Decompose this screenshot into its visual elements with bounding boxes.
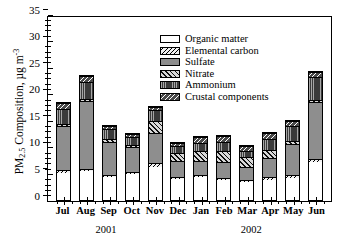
x-axis-minor-tick <box>301 201 302 204</box>
bar-segment-organic-matter <box>309 162 322 200</box>
legend-item-sulfate[interactable]: Sulfate <box>160 57 269 68</box>
bar-feb[interactable] <box>216 135 231 201</box>
y-axis-title-subscript: 2.5 <box>18 148 27 158</box>
x-axis-minor-tick <box>209 201 210 204</box>
year-label-2002: 2002 <box>241 224 262 235</box>
legend-swatch-icon <box>160 93 180 101</box>
x-axis-tick-inner <box>87 197 88 201</box>
legend-item-label: Nitrate <box>185 69 214 80</box>
legend-item-elemental-carbon[interactable]: Elemental carbon <box>160 46 269 57</box>
bar-segment-sulfate <box>240 167 253 180</box>
legend-item-label: Elemental carbon <box>185 46 259 57</box>
bar-segment-ammonium <box>263 139 276 149</box>
x-axis-label-sep: Sep <box>98 205 120 219</box>
x-axis-label-apr: Apr <box>259 205 281 219</box>
x-axis-minor-tick <box>118 201 119 204</box>
bar-segment-ammonium <box>149 110 162 121</box>
legend-swatch-icon <box>160 35 180 43</box>
x-axis-label-jan: Jan <box>190 205 212 219</box>
bar-mar[interactable] <box>239 145 254 201</box>
legend-item-label: Sulfate <box>185 57 215 68</box>
legend-swatch-icon <box>160 58 180 66</box>
bar-sep[interactable] <box>102 125 117 201</box>
x-axis-minor-tick <box>126 201 127 204</box>
legend-swatch-icon <box>160 70 180 78</box>
bar-dec[interactable] <box>170 142 185 201</box>
y-axis-tick-label: 15 <box>22 109 40 121</box>
bar-apr[interactable] <box>262 132 277 201</box>
bar-jul[interactable] <box>56 102 71 201</box>
bar-segment-organic-matter <box>217 180 230 200</box>
x-axis-minor-tick <box>194 201 195 204</box>
bar-segment-sulfate <box>286 144 299 175</box>
bar-segment-nitrate <box>240 157 253 167</box>
legend-item-nitrate[interactable]: Nitrate <box>160 69 269 80</box>
bar-segment-sulfate <box>103 142 116 175</box>
x-axis-tick-inner <box>271 197 272 201</box>
x-axis-minor-tick <box>95 201 96 204</box>
bar-aug[interactable] <box>79 75 94 201</box>
x-axis-minor-tick <box>263 201 264 204</box>
bar-oct[interactable] <box>125 133 140 201</box>
plot-area: 05101520253035 Organic matterElemental c… <box>47 16 332 202</box>
x-axis-tick-inner <box>202 197 203 201</box>
bar-segment-nitrate <box>149 121 162 133</box>
bar-jun[interactable] <box>308 71 323 201</box>
legend-item-organic-matter[interactable]: Organic matter <box>160 34 269 45</box>
x-axis-label-nov: Nov <box>144 205 166 219</box>
x-axis-minor-tick <box>80 201 81 204</box>
x-axis-tick-inner <box>156 197 157 201</box>
legend-item-crustal-components[interactable]: Crustal components <box>160 92 269 103</box>
x-axis-label-jun: Jun <box>305 205 327 219</box>
x-axis-tick-inner <box>179 197 180 201</box>
x-axis-label-mar: Mar <box>236 205 258 219</box>
x-axis-minor-tick <box>72 201 73 204</box>
x-axis-minor-tick <box>286 201 287 204</box>
x-axis-minor-tick <box>103 201 104 204</box>
x-axis-minor-tick <box>324 201 325 204</box>
bar-segment-organic-matter <box>126 174 139 200</box>
year-label-2001: 2001 <box>95 224 116 235</box>
y-axis-tick-label: 5 <box>22 162 40 174</box>
bar-segment-ammonium <box>309 77 322 100</box>
bar-segment-ammonium <box>103 129 116 139</box>
bar-segment-ammonium <box>80 82 93 98</box>
bar-segment-organic-matter <box>240 182 253 200</box>
y-axis-tick-label: 25 <box>22 56 40 68</box>
legend-item-label: Crustal components <box>185 92 269 103</box>
y-axis-tick-label: 0 <box>22 189 40 201</box>
x-axis-minor-tick <box>278 201 279 204</box>
x-axis-label-feb: Feb <box>213 205 235 219</box>
bar-segment-sulfate <box>171 161 184 176</box>
y-axis-tick: 35 <box>22 4 48 16</box>
x-axis-labels: JulAugSepOctNovDecJanFebMarAprMayJun <box>47 205 332 219</box>
bar-segment-organic-matter <box>149 167 162 200</box>
bar-segment-sulfate <box>194 161 207 175</box>
bar-segment-sulfate <box>149 133 162 164</box>
x-axis-minor-tick <box>171 201 172 204</box>
x-axis-minor-tick <box>217 201 218 204</box>
x-axis-tick-inner <box>294 197 295 201</box>
y-axis-title-mid: Composition, µg m <box>13 55 25 147</box>
y-axis-tick-label: 30 <box>22 30 40 42</box>
x-axis-minor-tick <box>232 201 233 204</box>
x-axis-minor-tick <box>240 201 241 204</box>
x-axis-tick-inner <box>248 197 249 201</box>
bar-nov[interactable] <box>148 106 163 202</box>
x-axis-tick-inner <box>316 197 317 201</box>
x-axis-label-may: May <box>282 205 304 219</box>
x-axis-minor-tick <box>164 201 165 204</box>
legend-item-ammonium[interactable]: Ammonium <box>160 80 269 91</box>
legend-item-label: Organic matter <box>185 34 248 45</box>
bar-segment-ammonium <box>194 143 207 151</box>
x-axis-year-labels: 20012002 <box>47 224 332 238</box>
bar-segment-nitrate <box>194 151 207 161</box>
y-axis-tick-mark <box>43 9 48 10</box>
x-axis-minor-tick <box>149 201 150 204</box>
bar-segment-organic-matter <box>286 178 299 200</box>
bar-segment-sulfate <box>217 162 230 177</box>
bar-may[interactable] <box>285 120 300 201</box>
x-axis-minor-tick <box>186 201 187 204</box>
legend-swatch-icon <box>160 81 180 89</box>
bar-jan[interactable] <box>193 136 208 201</box>
